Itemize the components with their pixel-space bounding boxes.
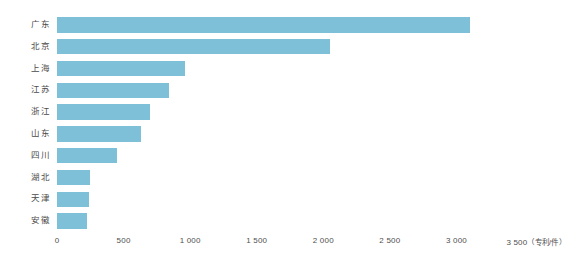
x-tick-label: 3 500（专利/件） [506, 236, 565, 247]
bar-row: 山东 [57, 123, 523, 145]
bar-row: 北京 [57, 36, 523, 58]
bar-row: 四川 [57, 145, 523, 167]
bar-chart: 广东北京上海江苏浙江山东四川湖北天津安徽 05001 0001 5002 000… [0, 0, 579, 273]
bar [57, 39, 330, 54]
bar [57, 83, 169, 98]
bar [57, 61, 185, 76]
bar-row: 上海 [57, 58, 523, 80]
bar [57, 170, 90, 185]
x-tick-label: 500 [117, 236, 131, 245]
x-tick-label: 0 [55, 236, 60, 245]
x-tick-label: 2 000 [313, 236, 334, 245]
x-axis-unit-label: （专利/件） [527, 238, 565, 247]
x-axis-ticks: 05001 0001 5002 0002 5003 0003 500（专利/件） [0, 236, 579, 256]
category-label: 上海 [31, 58, 50, 80]
x-tick-label: 3 000 [446, 236, 467, 245]
x-tick-label: 2 500 [379, 236, 400, 245]
category-label: 四川 [31, 145, 50, 167]
x-tick-label: 1 500 [246, 236, 267, 245]
category-label: 北京 [31, 36, 50, 58]
bar-row: 天津 [57, 188, 523, 210]
category-label: 湖北 [31, 167, 50, 189]
bar [57, 213, 87, 228]
category-label: 安徽 [31, 210, 50, 232]
bar [57, 17, 470, 32]
bar-row: 江苏 [57, 79, 523, 101]
bar [57, 192, 89, 207]
category-label: 广东 [31, 14, 50, 36]
bars-layer: 广东北京上海江苏浙江山东四川湖北天津安徽 [57, 14, 523, 232]
bar-row: 广东 [57, 14, 523, 36]
category-label: 江苏 [31, 79, 50, 101]
x-tick-label: 1 000 [180, 236, 201, 245]
plot-area: 广东北京上海江苏浙江山东四川湖北天津安徽 [57, 14, 523, 232]
category-label: 山东 [31, 123, 50, 145]
category-label: 浙江 [31, 101, 50, 123]
bar [57, 148, 117, 163]
category-label: 天津 [31, 188, 50, 210]
bar-row: 湖北 [57, 167, 523, 189]
bar [57, 104, 150, 119]
bar-row: 安徽 [57, 210, 523, 232]
bar [57, 126, 141, 141]
bar-row: 浙江 [57, 101, 523, 123]
